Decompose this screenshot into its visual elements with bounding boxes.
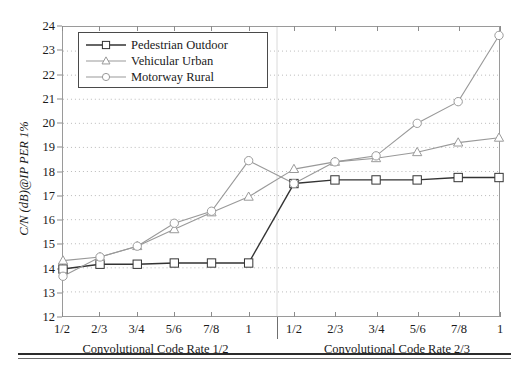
x-tick-label: 7/8: [191, 322, 231, 337]
circle-marker: [372, 152, 380, 160]
series-line: [63, 263, 249, 269]
y-tick-label: 16: [25, 213, 55, 228]
triangle-marker: [494, 133, 503, 141]
circle-marker: [244, 156, 252, 164]
x-tick-mark: [211, 312, 212, 317]
y-tick-label: 14: [25, 261, 55, 276]
x-tick-mark: [500, 312, 501, 317]
x-tick-label: 2/3: [315, 322, 355, 337]
legend-label: Motorway Rural: [127, 70, 214, 85]
x-tick-mark-top: [211, 26, 212, 31]
x-tick-label: 7/8: [439, 322, 479, 337]
x-tick-mark: [174, 312, 175, 317]
legend-label: Pedestrian Outdoor: [127, 38, 228, 53]
x-tick-mark: [335, 312, 336, 317]
circle-marker: [331, 158, 339, 166]
legend-item: Vehicular Urban: [85, 53, 261, 69]
circle-marker: [102, 73, 109, 80]
x-tick-label: 2/3: [79, 322, 119, 337]
legend-label: Vehicular Urban: [127, 54, 213, 69]
series-line-connector: [249, 184, 294, 263]
series-line: [294, 138, 499, 169]
square-marker: [102, 41, 109, 48]
footer-rule-thick: [18, 353, 511, 355]
x-tick-label: 3/4: [357, 322, 397, 337]
x-tick-mark-top: [294, 26, 295, 31]
x-tick-mark: [459, 312, 460, 317]
x-tick-mark-top: [459, 26, 460, 31]
x-tick-mark-top: [418, 26, 419, 31]
x-tick-mark: [249, 312, 250, 317]
square-marker: [133, 260, 141, 268]
series-line: [63, 197, 249, 261]
x-tick-mark: [377, 312, 378, 317]
triangle-marker: [244, 192, 253, 200]
x-tick-mark-top: [99, 26, 100, 31]
x-tick-label: 3/4: [117, 322, 157, 337]
figure-chart-cn-vs-code-rate: C/N (dB)@IP PER 1% 121314151617181920212…: [0, 0, 529, 367]
series-line-connector: [249, 169, 294, 197]
x-tick-mark-top: [377, 26, 378, 31]
x-tick-mark-top: [249, 26, 250, 31]
x-tick-label: 5/6: [154, 322, 194, 337]
circle-marker: [454, 97, 462, 105]
y-tick-label: 23: [25, 43, 55, 58]
series-vehicular-urban: [63, 138, 499, 261]
circle-marker: [59, 272, 67, 280]
x-tick-label: 1: [480, 322, 520, 337]
y-tick-label: 18: [25, 164, 55, 179]
y-axis: C/N (dB)@IP PER 1% 121314151617181920212…: [0, 0, 62, 367]
legend-marker-square: [85, 38, 127, 52]
x-tick-mark-top: [137, 26, 138, 31]
y-tick-label: 15: [25, 237, 55, 252]
series-line: [294, 35, 499, 183]
series-line: [294, 178, 499, 184]
square-marker: [413, 176, 421, 184]
x-tick-mark-top: [335, 26, 336, 31]
x-tick-mark: [99, 312, 100, 317]
square-marker: [454, 173, 462, 181]
triangle-marker: [102, 57, 110, 64]
circle-marker: [133, 242, 141, 250]
square-marker: [207, 259, 215, 267]
circle-marker: [96, 253, 104, 261]
legend-marker-triangle: [85, 54, 127, 68]
y-tick-label: 22: [25, 67, 55, 82]
x-tick-mark: [418, 312, 419, 317]
x-axis: 1/22/33/45/67/811/22/33/45/67/81Convolut…: [0, 317, 529, 367]
x-tick-label: 1/2: [42, 322, 82, 337]
x-tick-mark: [62, 312, 63, 317]
x-tick-label: 5/6: [398, 322, 438, 337]
series-line: [63, 161, 249, 277]
square-marker: [372, 176, 380, 184]
square-marker: [170, 259, 178, 267]
y-tick-label: 24: [25, 19, 55, 34]
x-tick-mark-top: [174, 26, 175, 31]
x-tick-mark-top: [62, 26, 63, 31]
circle-marker: [207, 207, 215, 215]
circle-marker: [413, 119, 421, 127]
y-tick-label: 20: [25, 116, 55, 131]
y-tick-label: 19: [25, 140, 55, 155]
x-tick-mark-top: [500, 26, 501, 31]
panel-divider: [277, 317, 278, 339]
square-marker: [244, 259, 252, 267]
legend-item: Motorway Rural: [85, 69, 261, 85]
x-tick-mark: [294, 312, 295, 317]
legend: Pedestrian OutdoorVehicular UrbanMotorwa…: [78, 32, 268, 88]
y-tick-label: 13: [25, 285, 55, 300]
x-tick-mark: [137, 312, 138, 317]
x-tick-label: 1: [229, 322, 269, 337]
circle-marker: [495, 31, 503, 39]
y-tick-label: 17: [25, 188, 55, 203]
square-marker: [495, 173, 503, 181]
circle-marker: [290, 179, 298, 187]
x-tick-label: 1/2: [274, 322, 314, 337]
series-line-connector: [249, 161, 294, 184]
circle-marker: [170, 219, 178, 227]
square-marker: [331, 176, 339, 184]
footer-rule-thin: [18, 358, 511, 359]
legend-marker-circle: [85, 70, 127, 84]
y-tick-label: 21: [25, 91, 55, 106]
legend-item: Pedestrian Outdoor: [85, 37, 261, 53]
